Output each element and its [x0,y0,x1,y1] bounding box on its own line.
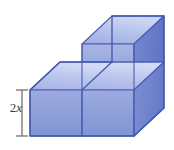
dimension-label-variable: x [16,100,22,115]
bottom-left-cube-front-face [30,90,82,136]
bottom-right-cube-front-face [82,90,134,136]
cube-stack-figure: 2x Ilustrações: DAE [0,0,174,150]
dimension-label: 2x [2,101,22,114]
cube-stack-illustration [0,0,174,150]
